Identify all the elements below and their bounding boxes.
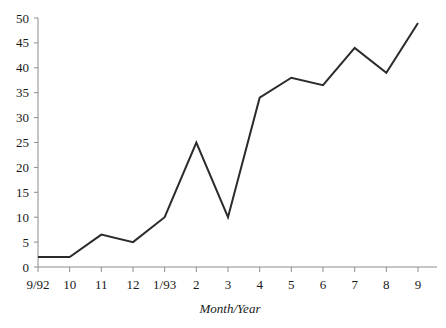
x-axis-tick-label: 1/93: [153, 277, 176, 292]
x-axis-tick-label: 9/92: [26, 277, 49, 292]
y-axis-tick-label: 45: [16, 35, 29, 50]
x-axis-title: Month/Year: [199, 301, 262, 316]
data-series-line: [38, 23, 418, 257]
x-axis-tick-label: 4: [256, 277, 263, 292]
x-axis-tick-labels: 9/921011121/9323456789: [26, 277, 421, 292]
y-axis-tick-label: 30: [16, 110, 29, 125]
y-axis-tick-labels: 05101520253035404550: [16, 11, 29, 275]
x-axis-tick-label: 10: [63, 277, 76, 292]
x-axis-ticks: [38, 267, 418, 272]
y-axis-tick-label: 20: [16, 160, 29, 175]
y-axis-tick-label: 50: [16, 11, 29, 26]
y-axis-ticks: [34, 18, 38, 267]
y-axis-tick-label: 25: [16, 135, 29, 150]
y-axis-tick-label: 40: [16, 60, 29, 75]
x-axis-tick-label: 9: [415, 277, 422, 292]
y-axis-tick-label: 0: [23, 260, 30, 275]
x-axis-tick-label: 8: [383, 277, 390, 292]
x-axis-tick-label: 12: [127, 277, 140, 292]
y-axis-tick-label: 5: [23, 235, 30, 250]
y-axis: 05101520253035404550: [16, 11, 38, 275]
y-axis-tick-label: 15: [16, 185, 29, 200]
x-axis-tick-label: 5: [288, 277, 295, 292]
x-axis-tick-label: 6: [320, 277, 327, 292]
chart-canvas: 05101520253035404550 9/921011121/9323456…: [0, 0, 446, 328]
x-axis-tick-label: 3: [225, 277, 232, 292]
x-axis-tick-label: 7: [351, 277, 358, 292]
x-axis-tick-label: 11: [95, 277, 108, 292]
y-axis-tick-label: 10: [16, 210, 29, 225]
x-axis: 9/921011121/9323456789: [26, 267, 437, 292]
line-chart: 05101520253035404550 9/921011121/9323456…: [0, 0, 446, 328]
y-axis-tick-label: 35: [16, 85, 29, 100]
x-axis-tick-label: 2: [193, 277, 200, 292]
